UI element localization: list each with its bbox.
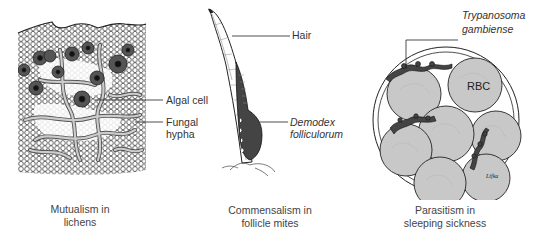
panel-follicle-mites: Hair Demodex folliculorum Commensalism i… — [200, 0, 370, 236]
label-fungal-hypha-line2: hypha — [166, 128, 195, 140]
caption-follicle-mites-line2: follicle mites — [220, 217, 320, 230]
caption-sleeping-sickness-line2: sleeping sickness — [390, 217, 500, 230]
caption-lichens-line1: Mutualism in — [44, 203, 116, 216]
panel-sleeping-sickness: Lifka Trypanosoma gambiense RBC Parasiti… — [370, 0, 538, 236]
caption-lichens: Mutualism in lichens — [44, 203, 116, 229]
label-trypanosoma-line2: gambiense — [462, 23, 513, 35]
label-demodex-line1: Demodex — [290, 116, 335, 128]
label-demodex-line2: folliculorum — [290, 128, 343, 140]
caption-lichens-line2: lichens — [44, 216, 116, 229]
label-hair: Hair — [292, 29, 311, 41]
caption-follicle-mites-line1: Commensalism in — [220, 204, 320, 217]
artist-signature: Lifka — [485, 173, 498, 179]
label-trypanosoma-line1: Trypanosoma — [462, 9, 525, 21]
hair-mite-illustration — [200, 0, 370, 190]
caption-sleeping-sickness: Parasitism in sleeping sickness — [390, 204, 500, 230]
caption-sleeping-sickness-line1: Parasitism in — [390, 204, 500, 217]
panel-lichens: Algal cell Fungal hypha Mutualism in lic… — [0, 0, 200, 236]
label-rbc: RBC — [467, 80, 490, 92]
label-fungal-hypha-line1: Fungal — [166, 116, 198, 128]
caption-follicle-mites: Commensalism in follicle mites — [220, 204, 320, 230]
